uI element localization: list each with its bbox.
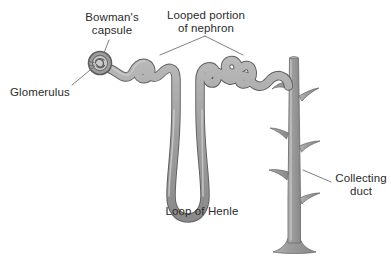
label-bowmans-capsule: Bowman's capsule <box>74 11 150 37</box>
nephron-illustration <box>0 0 391 261</box>
label-looped-portion-of-nephron: Looped portion of nephron <box>152 9 260 35</box>
collecting-duct-branch-right-3 <box>300 193 320 204</box>
collecting-duct-branch-right-2 <box>299 141 320 152</box>
nephron-tubule-group <box>108 60 289 218</box>
leader-line-looped-portion <box>160 36 243 55</box>
label-collecting-duct: Collecting duct <box>334 172 388 198</box>
collecting-duct-branch-left-1 <box>270 128 289 139</box>
leader-line-bowmans-capsule <box>104 40 109 53</box>
bowmans-capsule-group <box>89 52 112 75</box>
leader-line-glomerulus <box>72 66 95 85</box>
nephron-tubule-fill <box>108 60 289 218</box>
collecting-duct-group <box>269 57 320 254</box>
leader-line-collecting-duct <box>303 170 331 182</box>
collecting-duct-branch-left-2 <box>269 170 289 180</box>
collecting-duct-branch-right-1 <box>299 88 319 101</box>
nephron-diagram: Bowman's capsule Looped portion of nephr… <box>0 0 391 261</box>
label-loop-of-henle: Loop of Henle <box>150 205 254 218</box>
label-glomerulus: Glomerulus <box>10 86 70 99</box>
